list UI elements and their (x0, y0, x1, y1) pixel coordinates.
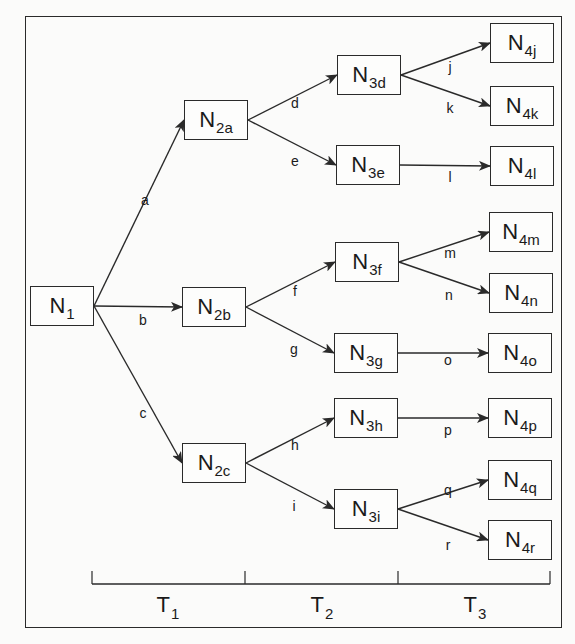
node-n2b: N2b (182, 287, 246, 327)
edge-label-l: l (448, 169, 451, 185)
node-subscript: 4l (525, 166, 537, 181)
node-label: N (506, 95, 522, 117)
node-n2a: N2a (184, 100, 248, 140)
node-label: N (349, 407, 365, 429)
node-n4l: N4l (490, 146, 554, 186)
node-subscript: 4q (520, 480, 537, 495)
node-label: N (197, 296, 213, 318)
node-label: N (503, 469, 519, 491)
edge-arrow-i (246, 463, 334, 509)
edge-label-i: i (292, 498, 295, 514)
node-subscript: 2b (214, 307, 231, 322)
node-label: N (352, 498, 368, 520)
node-subscript: 4r (522, 540, 535, 555)
edge-arrow-f (246, 262, 335, 307)
node-subscript: 4n (521, 293, 538, 308)
edge-label-n: n (445, 287, 453, 303)
edge-label-k: k (447, 100, 454, 116)
edge-arrow-j (401, 43, 490, 75)
edge-arrow-k (401, 75, 490, 106)
node-label: N (504, 282, 520, 304)
edge-label-h: h (291, 437, 299, 453)
edge-label-p: p (444, 422, 452, 438)
node-label: N (352, 251, 368, 273)
edge-label-m: m (444, 245, 456, 261)
node-n4r: N4r (488, 520, 552, 560)
node-label: N (198, 452, 214, 474)
period-label-t2: T2 (311, 592, 334, 618)
node-label: N (351, 154, 367, 176)
node-n2c: N2c (182, 443, 246, 483)
edge-label-j: j (448, 59, 451, 75)
node-n3e: N3e (336, 145, 400, 185)
edge-arrow-b (94, 306, 182, 307)
node-subscript: 4m (519, 232, 540, 247)
edge-label-c: c (140, 405, 147, 421)
node-subscript: 3e (368, 165, 385, 180)
node-n1: N1 (30, 286, 94, 326)
node-label: N (199, 109, 215, 131)
node-n3d: N3d (337, 55, 401, 95)
node-n4m: N4m (489, 212, 553, 252)
edge-arrow-a (94, 120, 184, 306)
edge-arrow-q (398, 480, 488, 509)
edge-arrow-r (398, 509, 488, 540)
node-subscript: 2c (215, 463, 231, 478)
node-n3i: N3i (334, 489, 398, 529)
edge-arrow-c (94, 306, 182, 463)
edge-arrow-n (399, 262, 489, 293)
node-subscript: 4j (525, 43, 537, 58)
node-n3g: N3g (334, 333, 398, 373)
period-main: T (311, 592, 324, 617)
edge-label-a: a (141, 192, 149, 208)
node-label: N (508, 32, 524, 54)
node-n4j: N4j (490, 23, 554, 63)
node-subscript: 3g (366, 353, 383, 368)
period-subscript: 3 (478, 605, 486, 622)
period-main: T (464, 592, 477, 617)
edge-label-g: g (290, 341, 298, 357)
node-label: N (508, 155, 524, 177)
node-label: N (505, 529, 521, 551)
node-n4o: N4o (488, 333, 552, 373)
node-label: N (502, 221, 518, 243)
node-subscript: 3d (369, 75, 386, 90)
period-main: T (157, 592, 170, 617)
node-label: N (352, 64, 368, 86)
node-subscript: 3i (369, 509, 381, 524)
node-n4k: N4k (490, 86, 554, 126)
node-subscript: 4p (520, 418, 537, 433)
node-n4q: N4q (488, 460, 552, 500)
node-subscript: 3h (366, 418, 383, 433)
edge-label-e: e (291, 153, 299, 169)
node-label: N (503, 342, 519, 364)
node-n3f: N3f (335, 242, 399, 282)
node-label: N (349, 342, 365, 364)
edge-arrow-l (400, 165, 490, 166)
node-subscript: 4k (523, 106, 539, 121)
node-n3h: N3h (334, 398, 398, 438)
period-label-t1: T1 (157, 592, 180, 618)
node-subscript: 2a (216, 120, 233, 135)
edge-label-d: d (291, 95, 299, 111)
edge-label-q: q (444, 482, 452, 498)
edge-arrow-h (246, 418, 334, 463)
period-subscript: 1 (171, 605, 179, 622)
node-subscript: 4o (520, 353, 537, 368)
figure-caption-cropped (0, 636, 575, 644)
edge-label-r: r (446, 537, 451, 553)
node-label: N (49, 295, 65, 317)
edge-label-b: b (139, 312, 147, 328)
node-n4p: N4p (488, 398, 552, 438)
node-subscript: 1 (66, 306, 74, 321)
node-label: N (503, 407, 519, 429)
node-subscript: 3f (369, 262, 382, 277)
node-n4n: N4n (489, 273, 553, 313)
edge-label-o: o (444, 352, 452, 368)
period-subscript: 2 (325, 605, 333, 622)
edge-label-f: f (293, 283, 297, 299)
period-label-t3: T3 (464, 592, 487, 618)
